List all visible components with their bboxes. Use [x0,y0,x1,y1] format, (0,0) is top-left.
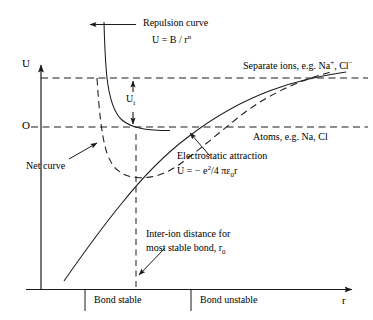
region-bond-stable-label: Bond stable [94,294,142,306]
interion-distance-base: most stable bond, r [146,242,222,253]
electrostatic-formula-part2: /4 πε [211,165,231,176]
bond-energy-label: Ui [126,93,135,107]
electrostatic-label: Electrostatic attraction [177,150,267,162]
net-curve-leader-line [69,143,97,159]
repulsion-curve-label: Repulsion curve [143,17,208,29]
separate-ions-label: Separate ions, e.g. Na+, Cl− [243,59,353,72]
repulsion-formula: U = B / rn [152,33,191,46]
electrostatic-formula-part3: r [234,165,237,176]
interion-distance-line2: most stable bond, r0 [146,242,226,256]
separate-ions-text-mid: , Cl [334,60,348,71]
interion-distance-subscript: 0 [222,248,226,256]
electrostatic-formula-part1: U = − e [177,165,207,176]
x-axis-label: r [342,294,346,307]
interion-distance-line1: Inter-ion distance for [146,228,230,240]
separate-ions-text: Separate ions, e.g. Na [243,60,330,71]
bond-energy-subscript: i [133,99,135,107]
repulsion-formula-base: U = B / r [152,34,188,45]
chloride-ion-charge: − [349,59,353,67]
potential-energy-diagram: U O r Repulsion curve U = B / rn Separat… [0,0,373,320]
y-axis-label: U [22,57,30,70]
net-curve [97,73,330,178]
repulsion-formula-exponent: n [188,33,192,41]
region-bond-unstable-label: Bond unstable [200,294,258,306]
net-curve-label: Net curve [26,160,65,172]
electrostatic-formula: U = − e2/4 πε0r [177,164,237,179]
origin-label: O [22,119,30,132]
atoms-label: Atoms, e.g. Na, Cl [253,131,328,143]
